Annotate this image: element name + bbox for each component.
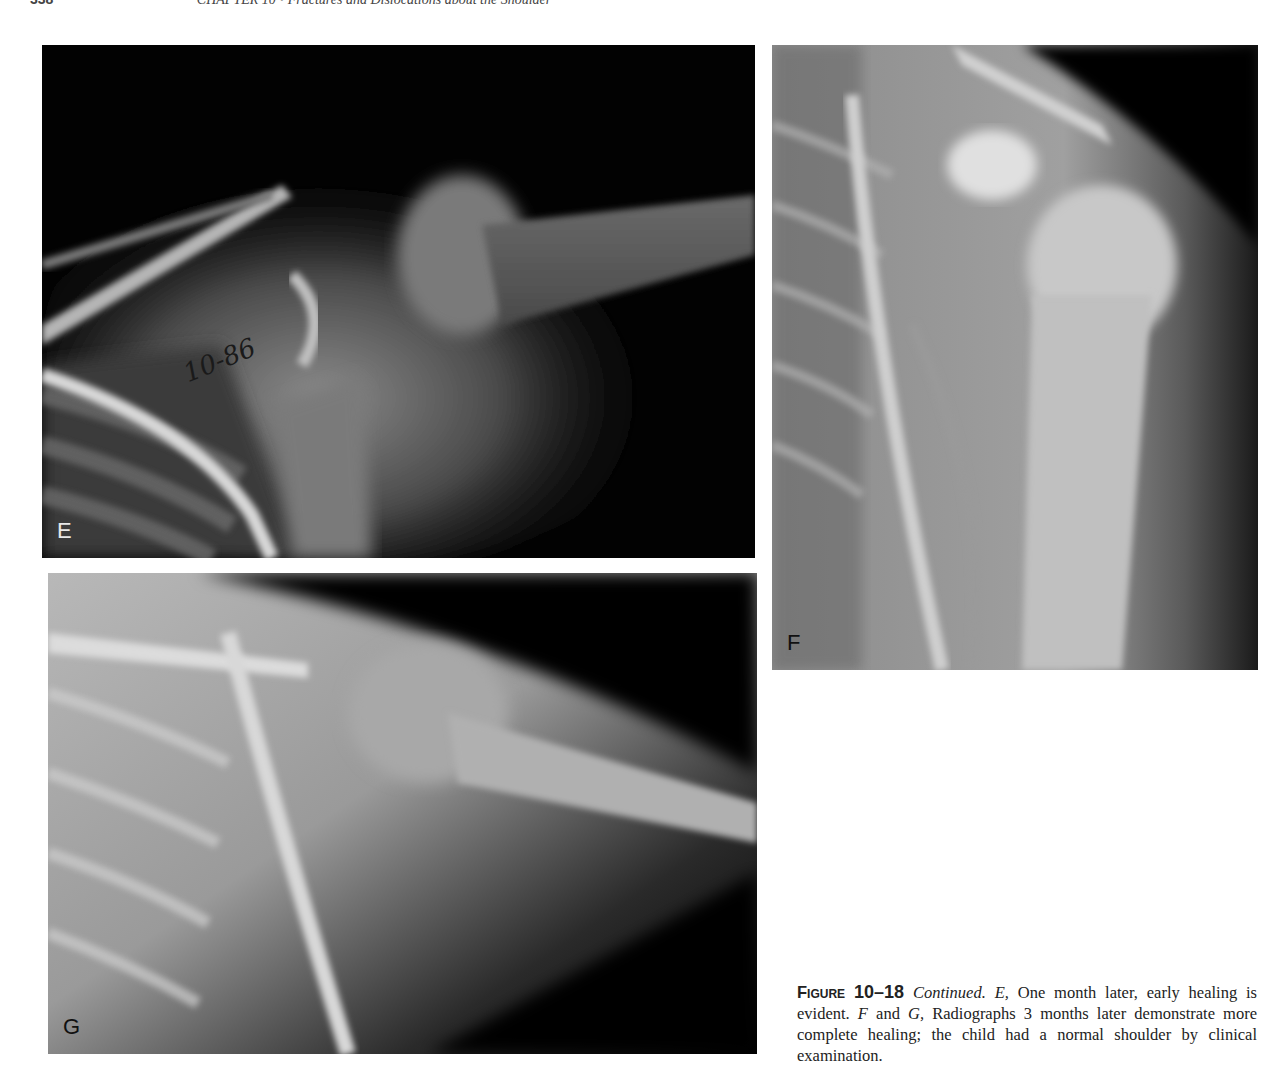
radiograph-panel-g: G bbox=[48, 573, 757, 1054]
chapter-title: CHAPTER 10 • Fractures and Dislocations … bbox=[197, 0, 551, 7]
panel-label-g: G bbox=[63, 1014, 80, 1040]
radiograph-panel-e: 10-86 E bbox=[42, 45, 755, 558]
xray-image-e bbox=[42, 45, 755, 558]
figure-number: 10–18 bbox=[854, 982, 904, 1002]
radiograph-panel-f: F bbox=[772, 45, 1258, 670]
running-head: 338 CHAPTER 10 • Fractures and Dislocati… bbox=[30, 0, 551, 8]
figure-caption: Figure 10–18 Continued. E, One month lat… bbox=[797, 982, 1257, 1066]
panel-label-e: E bbox=[57, 518, 72, 544]
panel-label-f: F bbox=[787, 630, 800, 656]
continued-text: Continued. bbox=[913, 983, 986, 1002]
caption-and: and bbox=[868, 1004, 908, 1023]
page-number: 338 bbox=[30, 0, 53, 7]
xray-image-g bbox=[48, 573, 757, 1054]
caption-f-label: F bbox=[858, 1004, 868, 1023]
caption-e-label: E, bbox=[995, 983, 1009, 1002]
xray-image-f bbox=[772, 45, 1258, 670]
caption-g-label: G, bbox=[908, 1004, 924, 1023]
figure-word: Figure bbox=[797, 983, 845, 1001]
